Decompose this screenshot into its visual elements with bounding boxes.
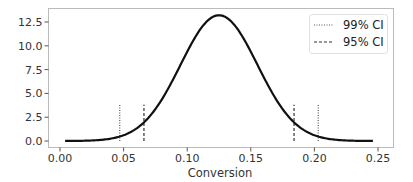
x-tick-label: 0.10 [175, 152, 200, 165]
x-axis-label: Conversion [188, 166, 252, 180]
x-tick-label: 0.20 [302, 152, 327, 165]
y-tick-label: 0.0 [25, 135, 43, 148]
y-tick-label: 7.5 [25, 64, 43, 77]
y-tick-label: 2.5 [25, 111, 43, 124]
x-tick-label: 0.25 [366, 152, 391, 165]
y-tick-label: 10.0 [18, 40, 43, 53]
x-tick-label: 0.15 [239, 152, 264, 165]
legend: 99% CI 95% CI [310, 15, 388, 54]
legend-99-label: 99% CI [343, 18, 384, 32]
legend-95-label: 95% CI [343, 35, 384, 49]
y-axis: 0.02.55.07.510.012.5 [18, 16, 49, 148]
x-tick-label: 0.05 [111, 152, 136, 165]
y-tick-label: 5.0 [25, 87, 43, 100]
conversion-density-chart: 0.02.55.07.510.012.5 0.000.050.100.150.2… [0, 0, 413, 182]
y-tick-label: 12.5 [18, 16, 43, 29]
x-tick-label: 0.00 [48, 152, 73, 165]
x-axis: 0.000.050.100.150.200.25 [48, 148, 391, 166]
